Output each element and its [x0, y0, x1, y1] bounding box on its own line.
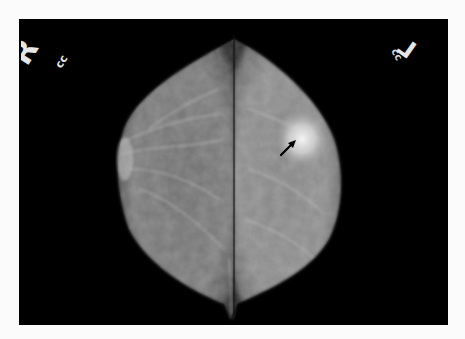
- breast-tissue-image: [19, 19, 448, 325]
- label-right-cc: R cc: [21, 33, 81, 93]
- label-left-cc: L cc: [387, 25, 437, 75]
- mammogram-film: R cc L cc: [19, 19, 448, 325]
- svg-text:R: R: [21, 33, 45, 71]
- svg-text:cc: cc: [53, 53, 71, 71]
- mass-density: [276, 111, 328, 167]
